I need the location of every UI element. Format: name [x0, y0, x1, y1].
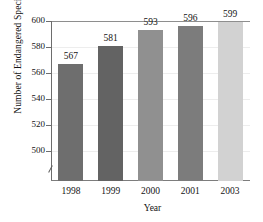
axis-break-icon	[47, 165, 55, 173]
y-axis-tick-label: 500	[21, 146, 45, 155]
bar	[58, 64, 83, 181]
bar	[138, 30, 163, 181]
x-axis-tick-label: 2000	[131, 186, 171, 196]
bar	[218, 22, 243, 181]
bar-value-label: 581	[91, 33, 131, 43]
bar-value-label: 593	[131, 17, 171, 27]
bar-value-label: 567	[51, 51, 91, 61]
y-axis-tick	[46, 21, 51, 22]
y-axis-tick-label: 520	[21, 120, 45, 129]
x-axis-tick-label: 1998	[51, 186, 91, 196]
y-axis-tick	[46, 99, 51, 100]
y-axis-tick	[46, 125, 51, 126]
y-axis-tick-label: 580	[21, 42, 45, 51]
y-axis-tick-label: 560	[21, 68, 45, 77]
y-axis-line	[51, 21, 52, 181]
x-axis-title: Year	[45, 203, 260, 213]
bar-value-label: 599	[210, 9, 250, 19]
y-axis-tick-label: 540	[21, 94, 45, 103]
x-axis-tick-label: 1999	[91, 186, 131, 196]
bar-value-label: 596	[170, 13, 210, 23]
y-axis-tick	[46, 47, 51, 48]
y-axis-tick	[46, 73, 51, 74]
x-axis-tick-label: 2003	[210, 186, 250, 196]
y-axis-tick	[46, 151, 51, 152]
bar-chart: Number of Endangered Species 50052054056…	[0, 0, 263, 222]
bar	[98, 46, 123, 181]
x-axis-tick-label: 2001	[170, 186, 210, 196]
plot-area: 500520540560580600 567581593596599 19981…	[51, 21, 250, 181]
y-axis-tick-label: 600	[21, 16, 45, 25]
bar	[178, 26, 203, 181]
